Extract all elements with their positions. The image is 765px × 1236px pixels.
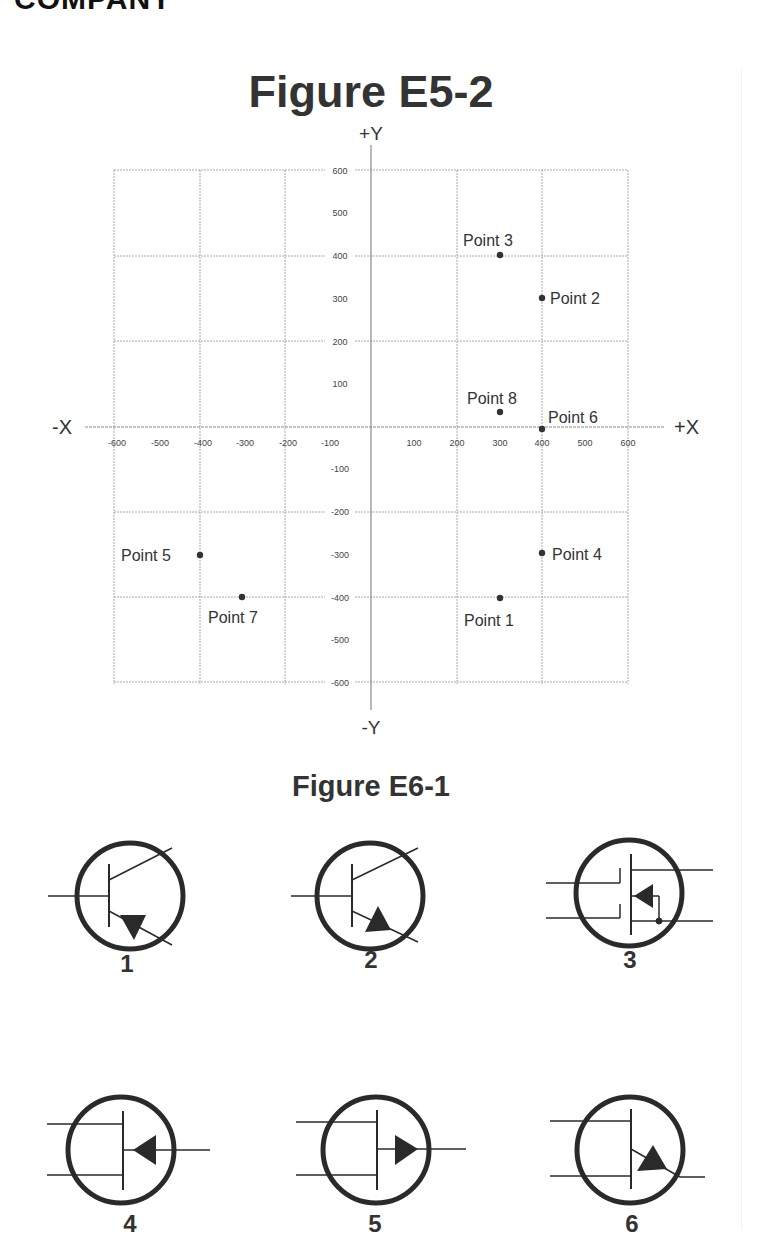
point-6-marker: [539, 426, 545, 432]
svg-text:300: 300: [332, 294, 347, 304]
point-3-marker: [497, 252, 503, 258]
point-2-marker: [539, 295, 545, 301]
svg-text:100: 100: [332, 379, 347, 389]
pos-x-label: +X: [674, 416, 699, 438]
symbol-2-pnp-transistor-icon: [291, 843, 423, 949]
symbol-3-mosfet-icon: [546, 840, 713, 946]
svg-text:100: 100: [406, 438, 421, 448]
symbol-3-number: 3: [610, 946, 650, 974]
point-8-label: Point 8: [467, 390, 517, 407]
symbol-2-number: 2: [351, 946, 391, 974]
point-5-marker: [197, 552, 203, 558]
point-1-label: Point 1: [464, 612, 514, 629]
x-tick-labels: -600 -500 -400 -300 -200 -100 100 200 30…: [108, 438, 636, 448]
coordinate-plane-chart: +Y -Y -X +X -600 -500 -400 -300 -200 -10…: [0, 0, 765, 760]
point-labels: Point 1 Point 2 Point 3 Point 4 Point 5 …: [121, 232, 602, 629]
point-7-label: Point 7: [208, 609, 258, 626]
svg-text:-500: -500: [331, 635, 349, 645]
svg-text:-600: -600: [108, 438, 126, 448]
svg-text:-200: -200: [331, 507, 349, 517]
svg-text:-600: -600: [331, 678, 349, 688]
point-3-label: Point 3: [463, 232, 513, 249]
svg-text:200: 200: [332, 337, 347, 347]
point-2-label: Point 2: [550, 290, 600, 307]
svg-text:-400: -400: [194, 438, 212, 448]
point-4-marker: [539, 550, 545, 556]
symbol-4-n-channel-jfet-icon: [47, 1097, 210, 1203]
svg-text:-100: -100: [331, 464, 349, 474]
svg-text:300: 300: [492, 438, 507, 448]
svg-text:600: 600: [332, 166, 347, 176]
pos-y-label: +Y: [359, 123, 383, 144]
point-6-label: Point 6: [548, 409, 598, 426]
symbol-4-number: 4: [110, 1210, 150, 1236]
svg-text:-300: -300: [331, 550, 349, 560]
point-7-marker: [239, 594, 245, 600]
svg-text:200: 200: [449, 438, 464, 448]
transistor-symbols: [0, 800, 765, 1230]
symbol-1-npn-transistor-icon: [48, 843, 183, 949]
svg-text:500: 500: [332, 208, 347, 218]
point-1-marker: [497, 595, 503, 601]
neg-y-label: -Y: [362, 717, 381, 738]
svg-text:-100: -100: [321, 438, 339, 448]
symbol-1-number: 1: [107, 950, 147, 978]
point-5-label: Point 5: [121, 547, 171, 564]
svg-text:500: 500: [577, 438, 592, 448]
neg-x-label: -X: [52, 416, 72, 438]
svg-text:-500: -500: [151, 438, 169, 448]
svg-text:600: 600: [620, 438, 635, 448]
symbol-6-transistor-icon: [550, 1097, 705, 1203]
svg-text:400: 400: [332, 251, 347, 261]
symbol-6-number: 6: [612, 1210, 652, 1236]
point-4-label: Point 4: [552, 546, 602, 563]
symbol-5-p-channel-jfet-icon: [296, 1097, 466, 1203]
svg-text:-200: -200: [279, 438, 297, 448]
svg-text:-400: -400: [331, 593, 349, 603]
svg-text:-300: -300: [236, 438, 254, 448]
svg-text:400: 400: [534, 438, 549, 448]
figure-e6-1-title: Figure E6-1: [0, 770, 742, 803]
symbol-5-number: 5: [355, 1210, 395, 1236]
point-8-marker: [497, 409, 503, 415]
